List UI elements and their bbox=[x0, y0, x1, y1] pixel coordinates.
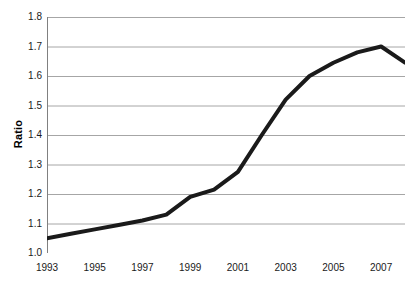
y-tick-label: 1.1 bbox=[14, 219, 42, 229]
y-tick-label: 1.0 bbox=[14, 248, 42, 258]
y-tick-label: 1.5 bbox=[14, 101, 42, 111]
x-tick-label: 1993 bbox=[27, 262, 67, 273]
x-axis-tick-labels: 19931995199719992001200320052007 bbox=[47, 262, 405, 278]
y-axis-tick-labels: 1.01.11.21.31.41.51.61.71.8 bbox=[10, 0, 42, 290]
y-tick-label: 1.7 bbox=[14, 42, 42, 52]
x-tick-label: 1999 bbox=[170, 262, 210, 273]
x-tick-label: 2003 bbox=[266, 262, 306, 273]
y-tick-label: 1.4 bbox=[14, 130, 42, 140]
y-tick-label: 1.6 bbox=[14, 71, 42, 81]
x-tick-label: 1997 bbox=[122, 262, 162, 273]
data-series-line bbox=[47, 47, 405, 239]
x-tick-label: 2001 bbox=[218, 262, 258, 273]
y-tick-label: 1.8 bbox=[14, 12, 42, 22]
x-tick-label: 1995 bbox=[75, 262, 115, 273]
line-chart: Ratio 1.01.11.21.31.41.51.61.71.8 199319… bbox=[0, 0, 418, 290]
plot-area bbox=[47, 17, 405, 253]
x-tick-label: 2005 bbox=[313, 262, 353, 273]
plot-svg bbox=[47, 17, 405, 253]
x-tick-label: 2007 bbox=[361, 262, 401, 273]
y-tick-label: 1.3 bbox=[14, 160, 42, 170]
y-tick-label: 1.2 bbox=[14, 189, 42, 199]
